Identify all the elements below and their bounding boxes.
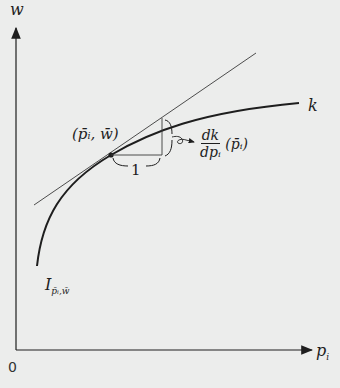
- pointer-arrow: [172, 136, 194, 143]
- derivative-fraction: dk dpᵢ: [200, 128, 221, 159]
- tangent-point-label: (p̄ᵢ, w̄): [72, 127, 119, 142]
- diagram-graphics: [0, 0, 340, 388]
- origin-label: 0: [8, 360, 17, 374]
- x-axis-label: pi: [316, 343, 329, 362]
- derivative-label: dk dpᵢ (p̄ᵢ): [200, 128, 248, 159]
- curve-k-label: k: [308, 98, 318, 114]
- economics-diagram: w pi 0 k Ip̄ᵢ,w̄ (p̄ᵢ, w̄) 1 dk dpᵢ (p̄ᵢ…: [0, 0, 340, 388]
- curve-bottom-label: Ip̄ᵢ,w̄: [45, 277, 69, 296]
- run-label: 1: [131, 163, 141, 178]
- y-axis-label: w: [10, 2, 24, 18]
- rise-brace: [165, 120, 172, 156]
